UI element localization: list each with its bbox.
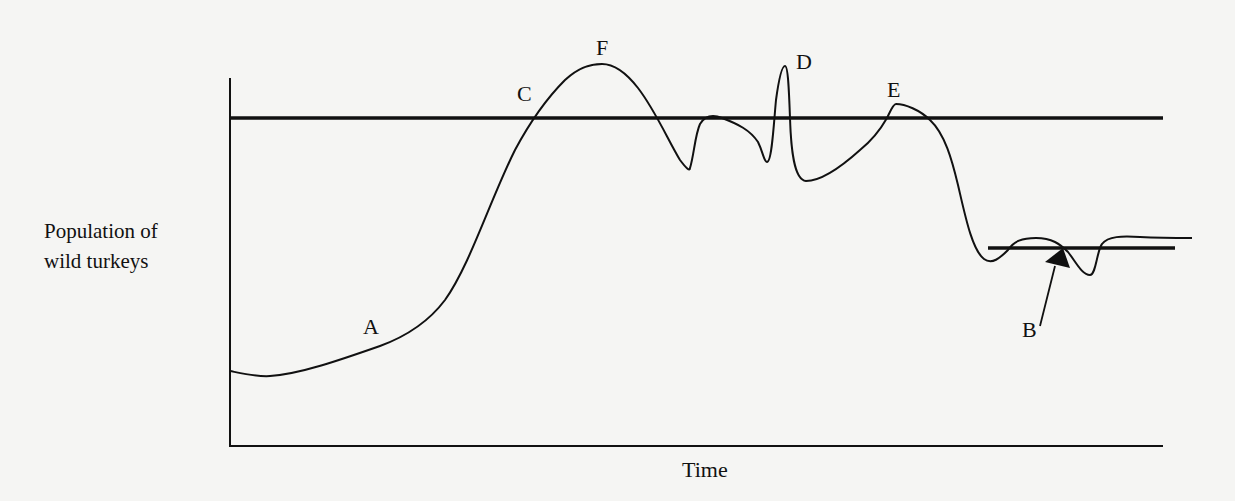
b-arrow-shaft	[1040, 266, 1055, 326]
label-a: A	[363, 316, 379, 338]
y-axis-title-line1: Population of	[44, 216, 158, 246]
label-d: D	[796, 51, 812, 73]
label-b: B	[1022, 319, 1037, 341]
label-f: F	[596, 37, 608, 59]
y-axis-title-line2: wild turkeys	[44, 246, 158, 276]
diagram-canvas	[0, 0, 1235, 501]
population-diagram: A B C D E F Population of wild turkeys T…	[0, 0, 1235, 501]
label-c: C	[517, 83, 532, 105]
x-axis-title: Time	[682, 457, 728, 483]
label-e: E	[887, 79, 900, 101]
y-axis-title: Population of wild turkeys	[44, 216, 158, 276]
